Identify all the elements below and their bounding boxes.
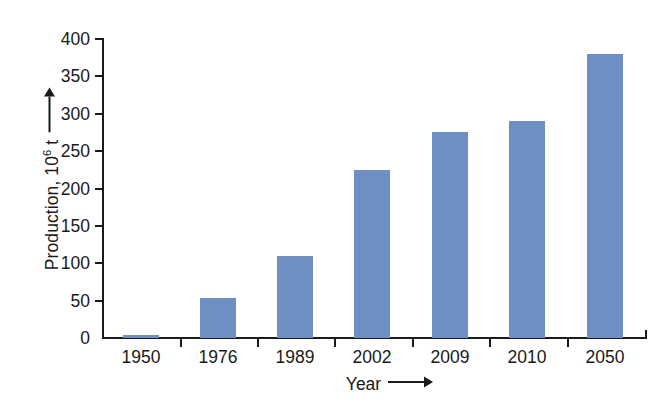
x-tick-mark: [489, 339, 491, 347]
y-axis-top-cap: [95, 38, 103, 40]
x-tick-label-2010: 2010: [508, 347, 547, 368]
x-axis-title-text: Year: [346, 374, 381, 394]
bar-1976: [200, 298, 236, 338]
x-tick-label-1950: 1950: [122, 347, 161, 368]
y-tick-label: 0: [2, 328, 90, 349]
y-tick-label-group: 400 350 300 250 200 150 100 50 0: [0, 0, 90, 404]
x-tick-label-1976: 1976: [199, 347, 238, 368]
x-axis-arrow-icon: [388, 373, 434, 394]
y-tick-label: 100: [2, 253, 90, 274]
x-axis-right-cap: [645, 330, 647, 339]
x-tick-label-2050: 2050: [586, 347, 625, 368]
bar-1989: [277, 256, 313, 338]
bars-layer: [103, 39, 645, 338]
bar-2050: [587, 54, 623, 338]
bar-1950: [123, 335, 159, 338]
x-axis-title: Year: [0, 374, 668, 395]
y-tick-label: 150: [2, 215, 90, 236]
x-tick-label-2002: 2002: [353, 347, 392, 368]
x-tick-mark: [257, 339, 259, 347]
y-tick-label: 300: [2, 103, 90, 124]
x-tick-label-2009: 2009: [431, 347, 470, 368]
x-tick-mark: [412, 339, 414, 347]
y-tick-label: 50: [2, 290, 90, 311]
y-tick-label: 350: [2, 66, 90, 87]
x-tick-mark: [180, 339, 182, 347]
x-tick-label-1989: 1989: [276, 347, 315, 368]
x-tick-mark: [567, 339, 569, 347]
y-tick-label: 200: [2, 178, 90, 199]
y-tick-label: 400: [2, 29, 90, 50]
bar-2009: [432, 132, 468, 338]
y-tick-label: 250: [2, 141, 90, 162]
x-tick-mark: [334, 339, 336, 347]
bar-2002: [354, 170, 390, 338]
bar-chart-figure: Production, 106 t 400 350 300 250 200 15…: [0, 0, 668, 404]
bar-2010: [509, 121, 545, 338]
